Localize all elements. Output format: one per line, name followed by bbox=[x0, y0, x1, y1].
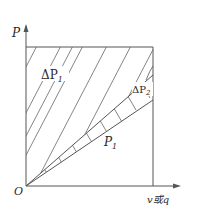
p1-label: P1 bbox=[103, 135, 117, 151]
y-axis-arrow-icon bbox=[24, 24, 29, 32]
origin-label: O bbox=[14, 185, 23, 198]
x-axis bbox=[26, 184, 181, 189]
delta-p2-label: ΔP2 bbox=[132, 82, 153, 97]
lower-curve bbox=[26, 100, 153, 186]
power-diagram: P O v或q ΔP1 ΔP2 P1 bbox=[0, 0, 198, 216]
y-axis bbox=[24, 24, 29, 186]
x-axis-arrow-icon bbox=[173, 184, 181, 189]
delta-p2-hatching bbox=[42, 81, 150, 182]
delta-p1-hatching bbox=[0, 40, 182, 186]
x-axis-label: v或q bbox=[147, 194, 169, 205]
y-axis-label: P bbox=[11, 26, 21, 40]
